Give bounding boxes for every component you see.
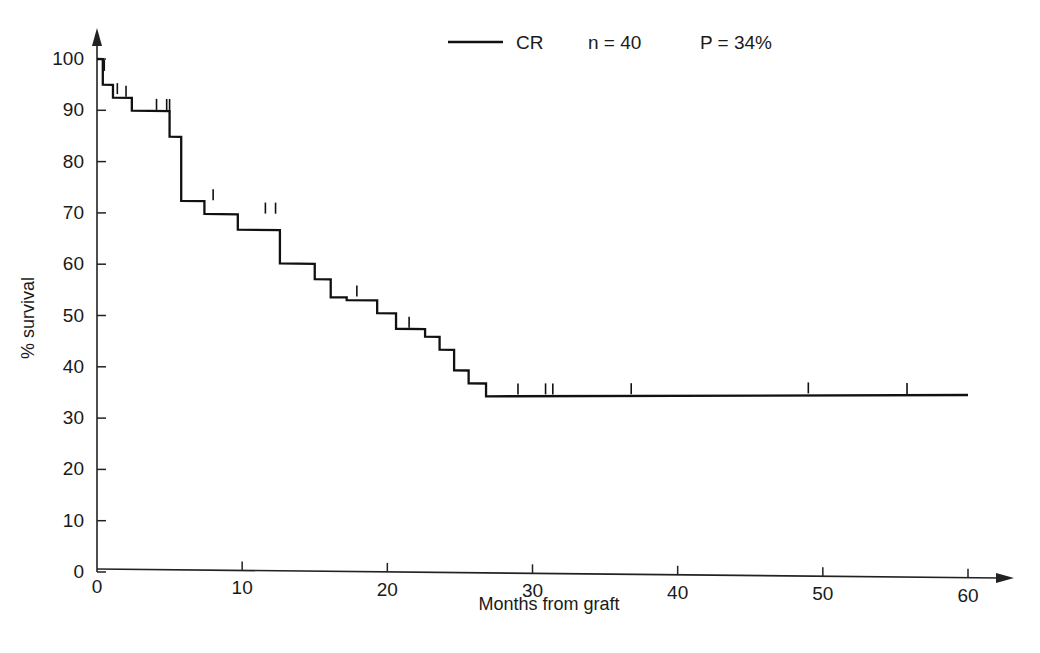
legend-p-label: P = 34%: [700, 32, 772, 53]
censoring-tick-marks: [104, 60, 907, 395]
legend-series-label: CR: [516, 32, 543, 53]
x-tick-label-40: 40: [667, 582, 688, 603]
survival-curve-group: [97, 59, 968, 396]
legend-n-label: n = 40: [588, 32, 641, 53]
x-tick-label-0: 0: [92, 576, 103, 597]
y-axis-ticks: 0102030405060708090100: [52, 48, 106, 582]
y-tick-label-80: 80: [63, 151, 84, 172]
y-tick-label-100: 100: [52, 48, 84, 69]
x-tick-label-20: 20: [377, 579, 398, 600]
y-tick-label-90: 90: [63, 99, 84, 120]
y-axis-title: % survival: [18, 277, 38, 359]
survival-curve-cr: [97, 59, 968, 396]
x-axis-arrowhead: [996, 573, 1014, 583]
y-tick-label-30: 30: [63, 407, 84, 428]
x-tick-label-60: 60: [957, 585, 978, 606]
y-tick-label-40: 40: [63, 356, 84, 377]
legend-n-value: = 40: [599, 32, 642, 53]
x-tick-label-50: 50: [812, 583, 833, 604]
x-tick-label-10: 10: [232, 577, 253, 598]
x-axis-title: Months from graft: [478, 594, 619, 614]
y-axis-arrowhead: [92, 28, 102, 46]
y-tick-label-60: 60: [63, 253, 84, 274]
chart-legend: CR n = 40 P = 34%: [448, 32, 772, 53]
y-tick-label-10: 10: [63, 510, 84, 531]
axis-titles: Months from graft % survival: [18, 277, 620, 614]
chart-axes: [92, 28, 1014, 583]
y-tick-label-70: 70: [63, 202, 84, 223]
survival-chart-figure: 0102030405060708090100 0102030405060 Mon…: [0, 0, 1040, 653]
survival-chart-svg: 0102030405060708090100 0102030405060 Mon…: [0, 0, 1040, 653]
legend-n-italic: n: [588, 32, 599, 53]
y-tick-label-50: 50: [63, 305, 84, 326]
y-tick-label-0: 0: [73, 561, 84, 582]
y-tick-label-20: 20: [63, 458, 84, 479]
